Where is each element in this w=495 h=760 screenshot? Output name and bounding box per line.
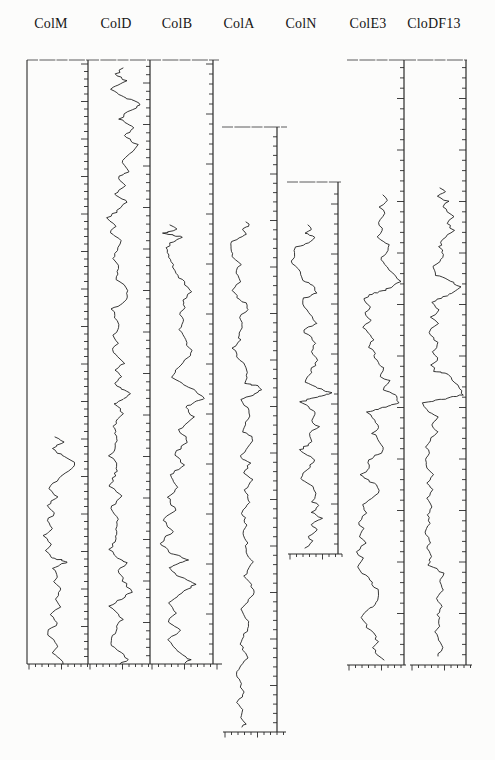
panel-label-coln: ColN (285, 16, 316, 32)
trace-coln (291, 225, 332, 548)
trace-cole3 (357, 195, 402, 660)
panel-cole3 (347, 60, 406, 671)
trace-colb (160, 225, 204, 663)
panel-cola (222, 127, 287, 738)
trace-clodf13 (422, 188, 463, 656)
panel-clodf13 (405, 60, 472, 671)
panel-coln (287, 182, 342, 560)
panel-label-colb: ColB (162, 16, 192, 32)
trace-cola (231, 222, 262, 727)
panel-label-cole3: ColE3 (350, 16, 387, 32)
panel-colm (27, 60, 88, 670)
panel-label-cola: ColA (223, 16, 254, 32)
panel-label-colm: ColM (34, 16, 67, 32)
trace-colm (43, 437, 74, 664)
panel-colb (150, 60, 222, 670)
figure-canvas (0, 0, 495, 760)
panel-label-cold: ColD (100, 16, 131, 32)
panel-label-clodf13: CloDF13 (407, 16, 461, 32)
plasmid-trace-figure: ColM ColD ColB ColA ColN ColE3 CloDF13 (0, 0, 495, 760)
trace-cold (107, 68, 140, 664)
panel-cold (88, 60, 150, 670)
